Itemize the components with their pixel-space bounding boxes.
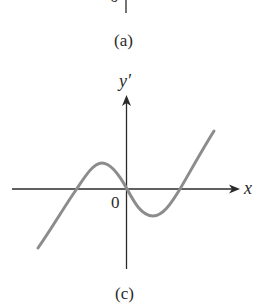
figure-c-caption: (c): [115, 284, 134, 304]
x-axis-label: x: [244, 178, 252, 199]
figure-a-caption: (a): [114, 31, 133, 51]
figure-a-origin-label: 0: [110, 0, 119, 7]
y-axis-label: y′: [119, 71, 131, 92]
origin-label: 0: [111, 193, 120, 213]
